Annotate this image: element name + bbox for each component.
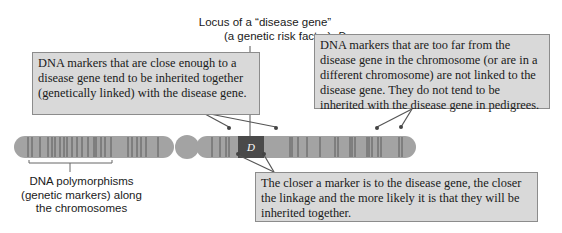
marker-dot [399,125,403,129]
marker-dot [262,152,266,156]
polymorphism-label: DNA polymorphisms (genetic markers) alon… [14,175,149,216]
locus-label-line1: Locus of a “disease gene” [199,16,331,28]
marker-dot [227,126,231,130]
polymorphism-bracket [29,160,112,172]
marker-dot [236,152,240,156]
close-markers-callout: DNA markers that are close enough to a d… [32,52,260,115]
far-markers-callout: DNA markers that are too far from the di… [314,34,550,109]
polymorphism-label-line3: the chromosomes [14,202,149,216]
polymorphism-label-line1: DNA polymorphisms [14,175,149,189]
leader-line [210,114,276,127]
marker-dot [375,126,379,130]
close-markers-leaders [205,114,278,130]
disease-gene-symbol: D [246,141,255,153]
polymorphism-label-line2: (genetic markers) along [14,189,149,203]
chromosome [14,135,416,159]
closer-linkage-callout: The closer a marker is to the disease ge… [255,172,538,222]
centromere [175,135,199,159]
marker-dot [274,126,278,130]
